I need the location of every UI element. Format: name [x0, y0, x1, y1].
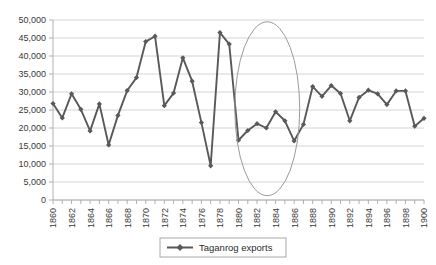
x-tick-label: 1882 [252, 208, 262, 228]
data-point-marker [106, 142, 111, 147]
x-tick-label: 1892 [345, 208, 355, 228]
chart-container: 05,00010,00015,00020,00025,00030,00035,0… [0, 0, 436, 265]
y-axis-ticks: 05,00010,00015,00020,00025,00030,00035,0… [18, 15, 53, 205]
x-tick-label: 1898 [401, 208, 411, 228]
x-tick-label: 1860 [48, 208, 58, 228]
highlight-ellipse [235, 22, 300, 196]
y-tick-label: 35,000 [18, 69, 46, 79]
y-tick-label: 30,000 [18, 87, 46, 97]
x-tick-label: 1874 [178, 208, 188, 228]
y-tick-label: 10,000 [18, 159, 46, 169]
x-tick-label: 1894 [364, 208, 374, 228]
y-tick-label: 45,000 [18, 33, 46, 43]
y-tick-label: 25,000 [18, 105, 46, 115]
data-point-marker [190, 79, 195, 84]
y-tick-label: 40,000 [18, 51, 46, 61]
x-tick-label: 1864 [86, 208, 96, 228]
data-point-marker [347, 118, 352, 123]
y-gridlines [53, 20, 424, 200]
y-tick-label: 15,000 [18, 141, 46, 151]
y-tick-label: 20,000 [18, 123, 46, 133]
data-point-marker [403, 88, 408, 93]
legend-label: Taganrog exports [199, 242, 273, 253]
x-tick-label: 1884 [271, 208, 281, 228]
x-tick-label: 1866 [104, 208, 114, 228]
data-point-marker [97, 101, 102, 106]
y-tick-label: 5,000 [23, 177, 46, 187]
legend: Taganrog exports [160, 238, 286, 257]
x-tick-label: 1868 [123, 208, 133, 228]
data-point-marker [199, 120, 204, 125]
x-tick-label: 1876 [197, 208, 207, 228]
x-tick-label: 1888 [308, 208, 318, 228]
y-tick-label: 0 [41, 195, 46, 205]
x-tick-label: 1880 [234, 208, 244, 228]
x-tick-label: 1872 [160, 208, 170, 228]
x-tick-label: 1870 [141, 208, 151, 228]
x-tick-label: 1890 [327, 208, 337, 228]
x-tick-label: 1896 [382, 208, 392, 228]
x-tick-label: 1862 [67, 208, 77, 228]
x-axis-ticks [53, 200, 424, 204]
line-chart: 05,00010,00015,00020,00025,00030,00035,0… [0, 0, 436, 265]
y-tick-label: 50,000 [18, 15, 46, 25]
data-point-marker [115, 113, 120, 118]
x-tick-label: 1878 [215, 208, 225, 228]
x-axis-labels: 1860186218641866186818701872187418761878… [48, 208, 429, 228]
data-point-marker [88, 128, 93, 133]
x-tick-label: 1886 [290, 208, 300, 228]
x-tick-label: 1900 [419, 208, 429, 228]
